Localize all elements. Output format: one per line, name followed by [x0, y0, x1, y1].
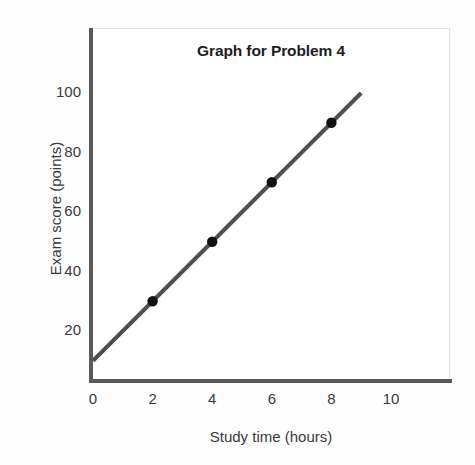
x-tick-label: 0	[73, 390, 113, 407]
x-axis-line	[89, 379, 452, 383]
x-tick-label: 2	[133, 390, 173, 407]
x-axis-label: Study time (hours)	[92, 428, 450, 445]
chart-figure: Graph for Problem 4 Study time (hours) E…	[0, 0, 475, 465]
y-tick-label: 80	[35, 143, 81, 160]
x-tick-label: 8	[311, 390, 351, 407]
x-tick-label: 6	[252, 390, 292, 407]
x-tick-label: 4	[192, 390, 232, 407]
plot-area	[92, 28, 450, 380]
y-tick-label: 100	[35, 83, 81, 100]
y-tick-label: 20	[35, 321, 81, 338]
chart-title: Graph for Problem 4	[92, 42, 450, 60]
x-tick-label: 10	[371, 390, 411, 407]
y-tick-label: 60	[35, 202, 81, 219]
y-tick-label: 40	[35, 262, 81, 279]
y-axis-line	[89, 28, 93, 383]
